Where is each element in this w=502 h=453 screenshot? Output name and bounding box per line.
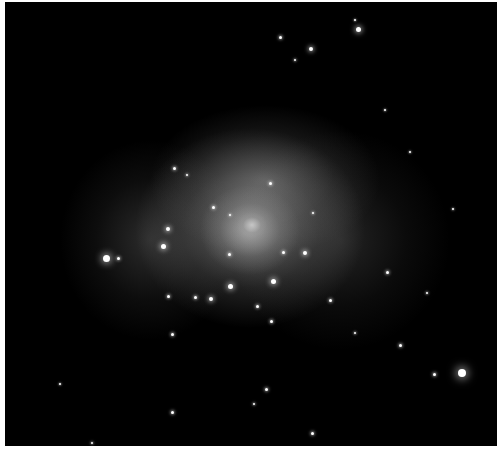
star-point [117,257,120,260]
star-point [294,59,296,61]
star-point [354,19,356,21]
star-point [409,151,411,153]
star-point [458,369,466,377]
diffuse-glow [237,212,267,238]
star-point [303,251,307,255]
star-point [91,442,93,444]
star-point [265,388,268,391]
star-point [209,297,213,301]
star-point [329,299,332,302]
star-point [167,295,170,298]
star-point [271,279,276,284]
star-point [59,383,61,385]
star-point [311,432,314,435]
star-point [356,27,361,32]
star-point [433,373,436,376]
star-point [194,296,197,299]
star-point [386,271,389,274]
star-point [452,208,454,210]
star-point [399,344,402,347]
star-point [103,255,110,262]
star-point [228,284,233,289]
star-point [384,109,386,111]
astronomical-image [5,2,497,446]
star-point [269,182,272,185]
star-point [161,244,166,249]
star-point [309,47,313,51]
star-point [253,403,255,405]
star-point [279,36,282,39]
star-point [173,167,176,170]
star-point [270,320,273,323]
star-point [282,251,285,254]
star-point [166,227,170,231]
star-point [171,411,174,414]
star-point [212,206,215,209]
star-point [256,305,259,308]
star-point [171,333,174,336]
star-point [228,253,231,256]
